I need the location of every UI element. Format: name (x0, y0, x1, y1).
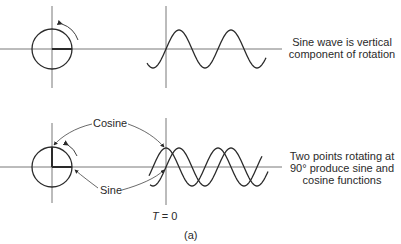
bottom-caption-line-1: Two points rotating at (283, 150, 401, 162)
t-variable: T (152, 210, 159, 222)
t-zero-label: T = 0 (152, 210, 177, 222)
bottom-caption-line-2: 90° produce sine and (283, 162, 401, 174)
bottom-caption-line-3: cosine functions (283, 174, 401, 186)
figure-label: (a) (184, 229, 197, 241)
sine-cosine-diagram: Sine wave is vertical component of rotat… (0, 0, 401, 244)
top-caption-line-1: Sine wave is vertical (286, 36, 398, 48)
sine-label: Sine (100, 184, 122, 196)
bottom-caption: Two points rotating at 90° produce sine … (283, 150, 401, 186)
top-caption: Sine wave is vertical component of rotat… (286, 36, 398, 60)
top-caption-line-2: component of rotation (286, 48, 398, 60)
t-equals-zero: = 0 (159, 210, 178, 222)
cosine-label: Cosine (93, 117, 127, 129)
top-rotation-arrow-icon (62, 24, 78, 40)
bottom-rotation-arrow-icon (68, 145, 77, 156)
